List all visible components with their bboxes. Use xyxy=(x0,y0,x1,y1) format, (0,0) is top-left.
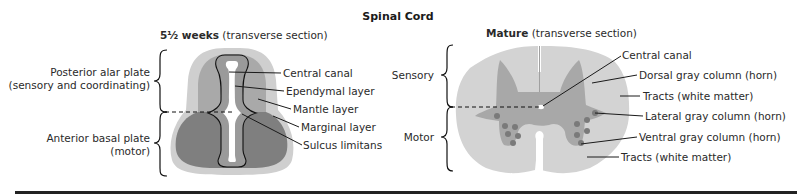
mature-callout-ventral-gray-column: Ventral gray column (horn) xyxy=(639,131,781,143)
mature-heading-bold: Mature xyxy=(486,27,528,39)
mature-section: Mature (transverse section) xyxy=(392,27,786,173)
ventral-fissure xyxy=(535,131,543,172)
mature-callout-central-canal: Central canal xyxy=(622,49,692,61)
motor-label: Motor xyxy=(404,131,435,143)
sensory-label: Sensory xyxy=(392,69,434,81)
basal-plate-label-2: (motor) xyxy=(110,145,150,157)
mature-callout-dorsal-gray-column: Dorsal gray column (horn) xyxy=(639,69,777,81)
callout-mantle-layer: Mantle layer xyxy=(293,103,359,115)
mature-callout-tracts-lower: Tracts (white matter) xyxy=(620,151,731,163)
callout-marginal-layer: Marginal layer xyxy=(301,121,377,133)
embryo-heading-rest: (transverse section) xyxy=(219,29,328,41)
mature-callout-lateral-gray-column: Lateral gray column (horn) xyxy=(645,110,786,122)
brace-lower xyxy=(154,112,167,176)
brace-upper xyxy=(154,50,167,112)
embryo-heading-bold: 5½ weeks xyxy=(160,29,219,41)
mature-heading-rest: (transverse section) xyxy=(528,27,637,39)
mature-brace-lower xyxy=(441,107,453,171)
alar-plate-label-2: (sensory and coordinating) xyxy=(9,79,150,91)
callout-central-canal: Central canal xyxy=(283,67,353,79)
spinal-cord-diagram: Spinal Cord 5½ weeks (transverse section… xyxy=(0,0,797,194)
mature-brace-upper xyxy=(441,45,453,107)
bottom-rule xyxy=(15,191,797,194)
callout-ependymal-layer: Ependymal layer xyxy=(286,85,375,97)
mature-heading: Mature (transverse section) xyxy=(486,27,637,39)
embryo-section: 5½ weeks (transverse section) Posterior … xyxy=(9,29,383,176)
callout-sulcus-limitans: Sulcus limitans xyxy=(303,139,382,151)
figure-title: Spinal Cord xyxy=(362,10,433,23)
basal-plate-label-1: Anterior basal plate xyxy=(46,132,150,144)
alar-plate-label-1: Posterior alar plate xyxy=(50,66,150,78)
mature-callout-tracts-upper: Tracts (white matter) xyxy=(642,90,753,102)
embryo-heading: 5½ weeks (transverse section) xyxy=(160,29,328,41)
